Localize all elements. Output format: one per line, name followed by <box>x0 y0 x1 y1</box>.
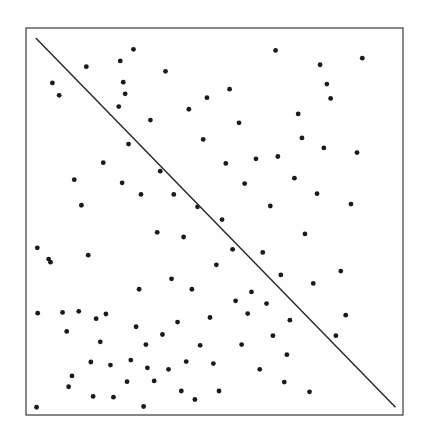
scatter-point <box>101 160 106 165</box>
scatter-point <box>148 118 153 123</box>
scatter-point <box>211 361 216 366</box>
scatter-point <box>328 96 333 101</box>
scatter-point <box>278 273 283 278</box>
scatter-point <box>91 394 96 399</box>
scatter-point <box>123 91 128 96</box>
scatter-point <box>254 156 259 161</box>
scatter-point <box>260 250 265 255</box>
scatter-point <box>198 343 203 348</box>
scatter-point <box>76 309 81 314</box>
scatter-point <box>94 316 99 321</box>
scatter-point <box>70 374 75 379</box>
scatter-plot-figure <box>0 0 427 439</box>
scatter-point <box>303 231 308 236</box>
scatter-point <box>79 203 84 208</box>
scatter-point <box>125 379 130 384</box>
scatter-point <box>166 367 171 372</box>
scatter-point <box>137 287 142 292</box>
scatter-point <box>318 62 323 67</box>
scatter-point <box>333 333 338 338</box>
scatter-point <box>324 82 329 87</box>
scatter-point <box>233 298 238 303</box>
scatter-point <box>273 48 278 53</box>
scatter-point <box>118 58 123 63</box>
scatter-point <box>288 318 293 323</box>
scatter-point <box>275 154 280 159</box>
scatter-point <box>245 311 250 316</box>
scatter-point <box>155 230 160 235</box>
scatter-point <box>307 389 312 394</box>
scatter-point <box>169 276 174 281</box>
scatter-point <box>208 315 213 320</box>
scatter-point <box>179 389 184 394</box>
scatter-point <box>284 352 289 357</box>
scatter-point <box>355 150 360 155</box>
scatter-point <box>237 120 242 125</box>
scatter-point <box>134 324 139 329</box>
scatter-point <box>108 363 113 368</box>
scatter-point <box>296 112 301 117</box>
scatter-point <box>145 365 150 370</box>
scatter-point <box>116 104 121 109</box>
scatter-point <box>217 389 222 394</box>
scatter-point <box>186 107 191 112</box>
scatter-point <box>64 329 69 334</box>
scatter-point <box>158 169 163 174</box>
scatter-point <box>230 247 235 252</box>
scatter-point <box>214 262 219 267</box>
scatter-point <box>292 176 297 181</box>
scatter-point <box>311 281 316 286</box>
scatter-point <box>141 404 146 409</box>
scatter-point <box>201 137 206 142</box>
scatter-point <box>34 405 39 410</box>
scatter-point <box>321 146 326 151</box>
scatter-point <box>184 359 189 364</box>
scatter-point <box>343 313 348 318</box>
scatter-point <box>57 93 62 98</box>
scatter-point <box>120 180 125 185</box>
scatter-point <box>86 253 91 258</box>
scatter-point <box>220 217 225 222</box>
scatter-point <box>35 311 40 316</box>
scatter-point <box>268 204 273 209</box>
scatter-point <box>239 342 244 347</box>
scatter-point <box>227 87 232 92</box>
scatter-point <box>242 181 247 186</box>
plot-canvas <box>0 0 427 439</box>
scatter-point <box>143 342 148 347</box>
scatter-point <box>315 191 320 196</box>
scatter-point <box>175 320 180 325</box>
scatter-point <box>160 332 165 337</box>
scatter-point <box>60 310 65 315</box>
scatter-point <box>300 136 305 141</box>
scatter-point <box>264 301 269 306</box>
scatter-point <box>88 360 93 365</box>
scatter-point <box>35 245 40 250</box>
scatter-point <box>104 312 109 317</box>
scatter-point <box>249 290 254 295</box>
scatter-point <box>271 333 276 338</box>
scatter-point <box>349 202 354 207</box>
scatter-point <box>223 161 228 166</box>
scatter-point <box>257 367 262 372</box>
scatter-point <box>128 358 133 363</box>
scatter-point <box>126 142 131 147</box>
scatter-point <box>72 177 77 182</box>
scatter-point <box>189 287 194 292</box>
scatter-point <box>152 379 157 384</box>
scatter-point <box>338 269 343 274</box>
scatter-point <box>193 397 198 402</box>
scatter-point <box>139 192 144 197</box>
scatter-point <box>171 192 176 197</box>
scatter-point <box>98 339 103 344</box>
scatter-point <box>205 95 210 100</box>
scatter-point <box>131 47 136 52</box>
scatter-point <box>48 260 53 265</box>
scatter-point <box>66 384 71 389</box>
scatter-point <box>181 235 186 240</box>
scatter-point <box>50 81 55 86</box>
scatter-point <box>163 69 168 74</box>
scatter-point <box>84 64 89 69</box>
scatter-point <box>111 395 116 400</box>
scatter-point <box>121 80 126 85</box>
